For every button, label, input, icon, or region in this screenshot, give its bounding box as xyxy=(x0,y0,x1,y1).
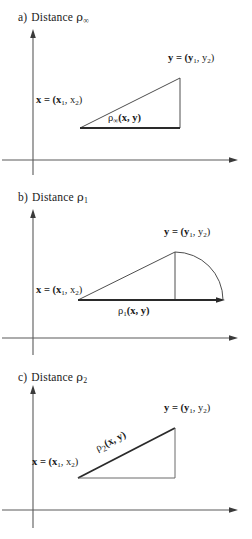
panel-b-arc xyxy=(175,252,223,300)
panel-a-x-axis-arrowhead xyxy=(229,157,238,163)
panel-b-hypotenuse xyxy=(78,252,175,300)
panel-b-distance-rho-1: b)Distance ρ1 x = (x1, x2) y = (y1, y2) xyxy=(0,180,252,360)
panel-a-point-y-label: y = (y1, y2) xyxy=(168,53,214,65)
panel-a-distance-rho-infinity: a)Distance ρ∞ x = (x1, x2) y = (y1, y2) … xyxy=(0,0,252,180)
panel-c-distance-rho-2: c)Distance ρ2 x = (x1, x2) y = (y1, y2) … xyxy=(0,360,252,539)
panel-b-point-x-label: x = (x1, x2) xyxy=(36,285,82,297)
panel-c-x-axis-arrowhead xyxy=(229,507,238,513)
panel-b-canvas xyxy=(0,180,252,360)
panel-a-point-x-label: x = (x1, x2) xyxy=(36,95,82,107)
panel-b-point-y-label: y = (y1, y2) xyxy=(164,227,210,239)
panel-c-point-y-label: y = (y1, y2) xyxy=(164,403,210,415)
panel-a-canvas xyxy=(0,0,252,180)
panel-c-canvas xyxy=(0,360,252,539)
panel-c-y-axis-arrowhead xyxy=(30,385,36,394)
distance-metrics-figure: a)Distance ρ∞ x = (x1, x2) y = (y1, y2) … xyxy=(0,0,252,539)
panel-a-y-axis-arrowhead xyxy=(30,29,36,38)
panel-b-base-arrowhead xyxy=(216,297,225,303)
panel-c-hypotenuse-distance-segment xyxy=(78,428,175,478)
panel-b-distance-label: ρ1(x, y) xyxy=(118,306,150,318)
panel-c-point-x-label: x = (x1, x2) xyxy=(32,457,78,469)
panel-b-x-axis-arrowhead xyxy=(229,335,238,341)
panel-a-distance-label: ρ∞(x, y) xyxy=(108,113,141,125)
panel-b-y-axis-arrowhead xyxy=(30,209,36,218)
